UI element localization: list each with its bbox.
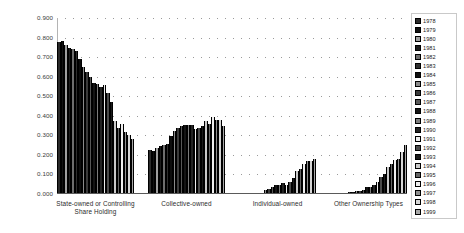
legend-label: 1997 [423,190,436,196]
legend-label: 1989 [423,118,436,124]
y-tick-label: 0.100 [37,171,53,177]
category-label: Other Ownership Types [314,200,424,208]
legend-swatch-icon [415,127,421,133]
category-label-line: Share Holding [41,208,151,216]
y-tick-label: 0.800 [37,35,53,41]
y-tick-label: 0.700 [37,54,53,60]
legend-item[interactable]: 1997 [414,189,454,198]
legend-label: 1987 [423,99,436,105]
legend-swatch-icon [415,72,421,78]
legend-swatch-icon [415,36,421,42]
legend-swatch-icon [415,63,421,69]
legend-label: 1979 [423,27,436,33]
legend-label: 1994 [423,163,436,169]
legend-label: 1982 [423,54,436,60]
legend-label: 1986 [423,90,436,96]
y-tick-label: 0.200 [37,152,53,158]
legend-swatch-icon [415,199,421,205]
legend-swatch-icon [415,108,421,114]
legend-item[interactable]: 1994 [414,162,454,171]
legend-swatch-icon [415,118,421,124]
legend-item[interactable]: 1980 [414,34,454,43]
legend-item[interactable]: 1978 [414,16,454,25]
legend-swatch-icon [415,145,421,151]
bar-group [148,18,225,194]
y-tick-label: 0.400 [37,113,53,119]
y-tick-label: 0.000 [37,191,53,197]
category-labels: State-owned or ControllingShare HoldingC… [57,198,407,222]
legend-item[interactable]: 1983 [414,61,454,70]
legend-label: 1993 [423,154,436,160]
legend-item[interactable]: 1993 [414,152,454,161]
bar-chart: 0.9000.8000.7000.6000.5000.4000.3000.200… [0,0,464,233]
legend-swatch-icon [415,181,421,187]
legend-label: 1980 [423,36,436,42]
y-axis-tick-labels: 0.9000.8000.7000.6000.5000.4000.3000.200… [0,18,57,194]
bar-groups [57,18,407,194]
legend-label: 1998 [423,199,436,205]
legend-item[interactable]: 1990 [414,125,454,134]
legend-swatch-icon [415,163,421,169]
legend-label: 1981 [423,45,436,51]
x-axis-line [57,193,407,194]
legend-label: 1991 [423,136,436,142]
legend-item[interactable]: 1992 [414,143,454,152]
legend-label: 1978 [423,18,436,24]
legend-item[interactable]: 1979 [414,25,454,34]
legend-item[interactable]: 1991 [414,134,454,143]
legend: 1978197919801981198219831984198519861987… [411,13,457,219]
y-tick-label: 0.600 [37,74,53,80]
bar-group [57,18,134,194]
legend-swatch-icon [415,190,421,196]
bar[interactable] [222,126,226,194]
legend-swatch-icon [415,172,421,178]
legend-item[interactable]: 1984 [414,71,454,80]
y-tick-label: 0.300 [37,132,53,138]
legend-swatch-icon [415,27,421,33]
legend-item[interactable]: 1999 [414,207,454,216]
legend-item[interactable]: 1989 [414,116,454,125]
legend-item[interactable]: 1996 [414,180,454,189]
legend-swatch-icon [415,154,421,160]
legend-label: 1996 [423,181,436,187]
legend-swatch-icon [415,136,421,142]
legend-label: 1999 [423,209,436,215]
legend-item[interactable]: 1986 [414,89,454,98]
legend-swatch-icon [415,45,421,51]
legend-label: 1990 [423,127,436,133]
legend-item[interactable]: 1988 [414,107,454,116]
legend-item[interactable]: 1995 [414,171,454,180]
legend-item[interactable]: 1998 [414,198,454,207]
legend-label: 1983 [423,63,436,69]
category-label-line: Other Ownership Types [314,200,424,208]
bar-group [330,18,407,194]
legend-item[interactable]: 1982 [414,52,454,61]
y-tick-label: 0.500 [37,93,53,99]
legend-label: 1985 [423,81,436,87]
bar-group [239,18,316,194]
legend-label: 1988 [423,108,436,114]
legend-swatch-icon [415,81,421,87]
legend-swatch-icon [415,99,421,105]
legend-label: 1984 [423,72,436,78]
y-tick-label: 0.900 [37,15,53,21]
legend-swatch-icon [415,18,421,24]
legend-label: 1992 [423,145,436,151]
legend-swatch-icon [415,54,421,60]
legend-label: 1995 [423,172,436,178]
legend-swatch-icon [415,90,421,96]
legend-item[interactable]: 1987 [414,98,454,107]
legend-item[interactable]: 1985 [414,80,454,89]
bar[interactable] [404,145,408,194]
bar[interactable] [313,159,317,194]
legend-item[interactable]: 1981 [414,43,454,52]
legend-swatch-icon [415,209,421,215]
plot-area [57,18,407,194]
bar[interactable] [131,139,135,194]
